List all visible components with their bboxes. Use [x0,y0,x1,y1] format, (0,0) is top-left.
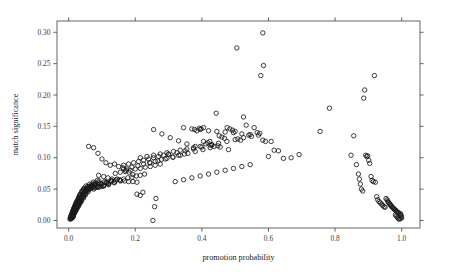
x-tick-label: 0.2 [131,234,141,243]
x-tick-label: 0.0 [64,234,74,243]
x-axis-title: promotion probability [202,253,275,262]
x-tick-label: 1.0 [397,234,407,243]
y-tick-label: 0.25 [37,59,50,68]
y-tick-label: 0.30 [37,28,50,37]
scatter-plot-figure: 0.00.20.40.60.81.00.000.050.100.150.200.… [0,0,449,278]
y-tick-label: 0.15 [37,122,50,131]
x-tick-label: 0.4 [197,234,207,243]
x-tick-label: 0.8 [330,234,340,243]
y-axis-title: match significance [11,93,20,155]
y-tick-label: 0.10 [37,153,50,162]
y-tick-label: 0.20 [37,91,50,100]
x-tick-label: 0.6 [264,234,274,243]
y-tick-label: 0.05 [37,185,50,194]
plot-canvas: 0.00.20.40.60.81.00.000.050.100.150.200.… [0,0,449,278]
y-tick-label: 0.00 [37,216,50,225]
